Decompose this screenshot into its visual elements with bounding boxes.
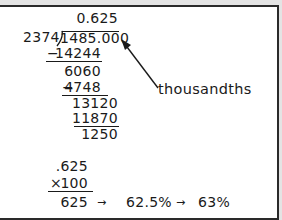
step4-remainder: 13120	[60, 96, 118, 111]
percent-value: 62.5%	[126, 195, 172, 210]
step5-subtract: 11870	[60, 111, 118, 126]
conversion-arrow-2: →	[176, 195, 186, 210]
product: 625	[40, 195, 88, 210]
multiplication-underline	[48, 191, 93, 192]
step6-remainder: 1250	[60, 127, 118, 142]
dividend: 1485.000	[60, 31, 118, 46]
step2-remainder: 6060	[40, 64, 101, 79]
arrow-icon	[118, 38, 163, 93]
step1-subtract: 14244	[40, 46, 101, 61]
multiplier: 100	[40, 176, 88, 191]
quotient: 0.625	[60, 11, 118, 26]
conversion-arrow-1: →	[97, 195, 107, 210]
divisor: 2374	[23, 30, 60, 45]
multiplicand: .625	[40, 159, 88, 174]
step3-subtract: 4748	[40, 80, 101, 95]
thousandths-label: thousandths	[158, 82, 252, 97]
rounded-percent: 63%	[198, 195, 230, 210]
